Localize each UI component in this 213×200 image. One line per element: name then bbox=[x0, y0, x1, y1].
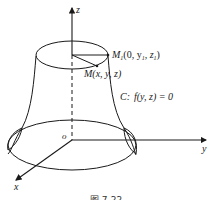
m1-label: M1(0, y1, z1) bbox=[111, 49, 160, 61]
point-m1 bbox=[107, 54, 110, 57]
figure-caption: 图 7-22 bbox=[90, 195, 122, 200]
surface-left-profile bbox=[8, 56, 36, 154]
point-m bbox=[96, 65, 99, 68]
z-axis-label: z bbox=[75, 4, 80, 15]
origin-label: o bbox=[62, 131, 67, 141]
y-axis-label: y bbox=[201, 143, 207, 154]
x-axis bbox=[16, 140, 72, 180]
curve-equation: C:f(y, z) = 0 bbox=[120, 91, 173, 103]
radius-to-m bbox=[72, 55, 97, 66]
x-axis-label: x bbox=[13, 181, 19, 192]
surface-of-revolution-diagram: z y x o M1(0, y1, z1) M(x, y, z) C:f(y, … bbox=[0, 0, 213, 200]
m-label: M(x, y, z) bbox=[83, 68, 122, 80]
